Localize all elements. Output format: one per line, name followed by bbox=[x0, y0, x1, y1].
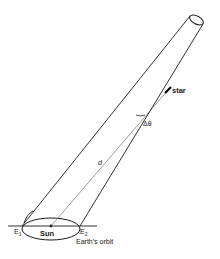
sun-label: Sun bbox=[40, 229, 55, 238]
delta-theta-arc bbox=[136, 115, 145, 116]
sightline-e1 bbox=[22, 16, 190, 226]
delta-theta-label: Δθ bbox=[143, 120, 152, 127]
sun-star-line bbox=[51, 90, 168, 226]
e1-label: E1 bbox=[14, 228, 22, 237]
orbit-label: Earth's orbit bbox=[76, 238, 113, 245]
e2-label: E2 bbox=[80, 228, 88, 237]
distance-label: d bbox=[98, 159, 103, 166]
star-label: star bbox=[172, 86, 186, 95]
parallax-diagram: star Δθ d Sun E1 E2 Earth's orbit bbox=[0, 0, 220, 259]
sightline-e2 bbox=[80, 24, 203, 226]
star-marker bbox=[165, 87, 171, 93]
